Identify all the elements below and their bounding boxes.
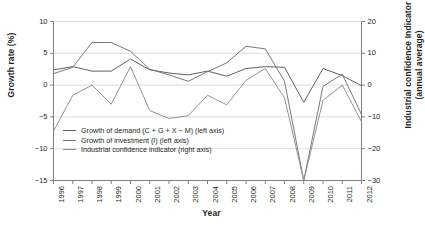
x-axis-tick: 2007 — [268, 186, 277, 216]
x-axis-tick: 1996 — [57, 186, 66, 216]
x-axis-tick: 2010 — [326, 186, 335, 216]
y-axis-left-tick: 0 — [22, 80, 48, 89]
legend-item-demand: Growth of demand (C + G + X − M) (left a… — [63, 126, 224, 136]
legend-label-demand: Growth of demand (C + G + X − M) (left a… — [81, 126, 224, 135]
y-axis-left-tick: 10 — [22, 17, 48, 26]
x-axis-tick: 2005 — [230, 186, 239, 216]
y-axis-right-tick: 20 — [368, 17, 394, 26]
x-axis-tick: 2001 — [153, 186, 162, 216]
legend-label-confidence: Industrial confidence indicator (right a… — [81, 145, 212, 154]
y-axis-right-title: Industrial confidence Indicator(annual a… — [403, 0, 425, 140]
legend-swatch-investment — [63, 140, 76, 141]
y-axis-left-tick: −15 — [22, 176, 48, 185]
x-axis-tick: 2000 — [134, 186, 143, 216]
legend-item-investment: Growth of investment (I) (left axis) — [63, 136, 224, 146]
x-axis-tick: 1997 — [76, 186, 85, 216]
y-axis-right-tick: −30 — [368, 176, 394, 185]
legend-swatch-demand — [63, 130, 76, 131]
y-axis-right-title-line2: (annual average) — [414, 30, 424, 99]
x-axis-tick: 2008 — [288, 186, 297, 216]
y-axis-right-tick: −10 — [368, 112, 394, 121]
legend-swatch-confidence — [63, 149, 76, 150]
chart-legend: Growth of demand (C + G + X − M) (left a… — [63, 126, 224, 155]
y-axis-right-tick: 0 — [368, 80, 394, 89]
y-axis-right-tick: 10 — [368, 48, 394, 57]
y-axis-right-title-line1: Industrial confidence Indicator — [403, 2, 413, 129]
x-axis-tick: 2002 — [172, 186, 181, 216]
x-axis-tick: 2009 — [307, 186, 316, 216]
x-axis-tick: 1998 — [95, 186, 104, 216]
y-axis-left-tick: −5 — [22, 112, 48, 121]
x-axis-tick: 1999 — [114, 186, 123, 216]
y-axis-left-tick: −10 — [22, 144, 48, 153]
x-axis-tick: 2003 — [191, 186, 200, 216]
legend-item-confidence: Industrial confidence indicator (right a… — [63, 145, 224, 155]
legend-label-investment: Growth of investment (I) (left axis) — [81, 136, 189, 145]
x-axis-tick: 2012 — [365, 186, 374, 216]
y-axis-left-tick: 5 — [22, 48, 48, 57]
x-axis-tick: 2006 — [249, 186, 258, 216]
x-axis-tick: 2004 — [211, 186, 220, 216]
y-axis-left-title: Growth rate (%) — [6, 25, 16, 105]
y-axis-right-tick: −20 — [368, 144, 394, 153]
x-axis-tick: 2011 — [345, 186, 354, 216]
